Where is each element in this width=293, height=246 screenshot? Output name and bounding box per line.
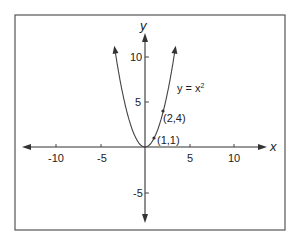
y-axis-down-arrow-icon	[142, 214, 148, 223]
equation-label: y = x2	[177, 82, 205, 94]
parabola-chart: x y -10 -5 5 10 10 5 -5 y = x2 (2,4) (1,…	[0, 0, 293, 246]
y-tick-label: -5	[133, 187, 143, 199]
y-axis-label: y	[139, 18, 148, 33]
x-tick-label: -10	[48, 152, 64, 164]
x-axis-label: x	[269, 139, 277, 154]
y-tick-label: 5	[135, 96, 141, 108]
curve-right-arrow-icon	[172, 46, 178, 54]
point-1-1	[152, 136, 155, 139]
x-tick-label: 10	[228, 152, 240, 164]
point-1-1-label: (1,1)	[157, 134, 180, 146]
y-tick-label: 10	[130, 51, 142, 63]
x-axis-right-arrow-icon	[258, 144, 267, 150]
x-axis-left-arrow-icon	[22, 144, 31, 150]
x-tick-label: 5	[187, 152, 193, 164]
point-2-4-label: (2,4)	[163, 112, 186, 124]
y-axis-up-arrow-icon	[142, 33, 148, 42]
curve-left-arrow-icon	[113, 46, 119, 54]
x-tick-label: -5	[97, 152, 107, 164]
chart-frame	[15, 15, 285, 230]
